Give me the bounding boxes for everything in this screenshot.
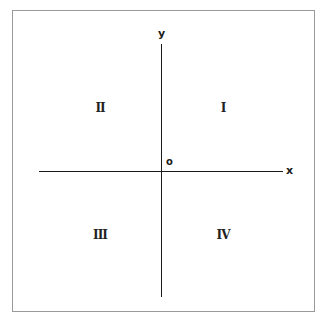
origin-label: o	[166, 157, 173, 167]
quadrant-IV-label: IV	[217, 229, 230, 241]
y-axis	[161, 44, 162, 297]
diagram-frame	[12, 10, 315, 312]
quadrant-III-label: III	[93, 229, 107, 241]
quadrant-I-label: I	[221, 102, 226, 114]
x-axis-label: x	[286, 165, 293, 176]
y-axis-label: y	[158, 28, 165, 39]
quadrant-II-label: II	[95, 102, 104, 114]
